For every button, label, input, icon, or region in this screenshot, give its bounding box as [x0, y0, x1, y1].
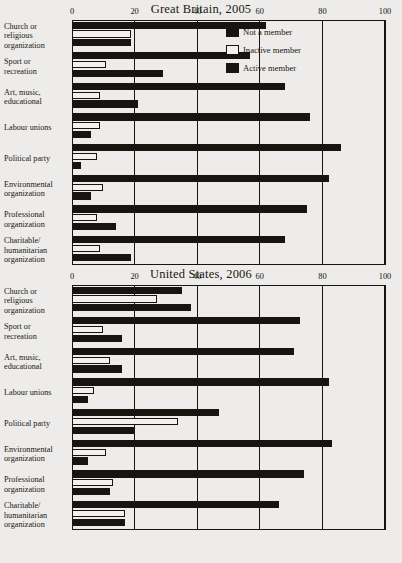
bar-inactive-member	[72, 387, 94, 394]
bar-active-member	[72, 519, 125, 526]
category-label-column-us: Church orreligiousorganizationSport orre…	[0, 285, 68, 530]
legend-label: Active member	[243, 63, 296, 73]
bar-not-a-member	[72, 144, 341, 151]
plot-area-great-britain: Church orreligiousorganizationSport orre…	[0, 20, 402, 265]
bar-active-member	[72, 335, 122, 342]
bar-active-member	[72, 427, 135, 434]
category-label-line: organization	[4, 454, 68, 463]
bar-inactive-member	[72, 30, 131, 37]
legend-label: Not a member	[243, 27, 292, 37]
bar-not-a-member	[72, 52, 250, 59]
bar-not-a-member	[72, 501, 279, 508]
category-label-line: humanitarian	[4, 511, 68, 520]
category-label: Sport orrecreation	[4, 57, 68, 75]
category-label: Environmentalorganization	[4, 445, 68, 463]
legend-swatch-icon	[226, 27, 239, 37]
category-label: Political party	[4, 154, 68, 163]
figure-root: Great Britain, 2005 Church orreligiousor…	[0, 0, 402, 563]
chart-panel-great-britain: Great Britain, 2005 Church orreligiousor…	[0, 0, 402, 265]
bar-active-member	[72, 365, 122, 372]
category-label-line: Political party	[4, 154, 68, 163]
x-tick-label-0: 0	[70, 7, 74, 16]
gridline-100	[384, 285, 385, 530]
x-tick-label-80: 80	[318, 272, 326, 281]
bar-active-member	[72, 223, 116, 230]
category-label-line: Environmental	[4, 180, 68, 189]
legend-gb: Not a memberInactive memberActive member	[226, 24, 344, 78]
category-label-line: Political party	[4, 419, 68, 428]
category-label-line: organization	[4, 41, 68, 50]
plot-bottom-rule-us	[72, 529, 385, 530]
bar-not-a-member	[72, 236, 285, 243]
bar-active-member	[72, 488, 110, 495]
bar-active-member	[72, 70, 163, 77]
bar-active-member	[72, 192, 91, 199]
category-label-line: Church or	[4, 22, 68, 31]
bar-inactive-member	[72, 184, 103, 191]
bar-inactive-member	[72, 418, 178, 425]
category-label: Charitable/humanitarianorganization	[4, 236, 68, 264]
category-label: Charitable/humanitarianorganization	[4, 501, 68, 529]
bar-inactive-member	[72, 510, 125, 517]
category-label-line: educational	[4, 97, 68, 106]
x-tick-label-60: 60	[256, 272, 264, 281]
bar-inactive-member	[72, 245, 100, 252]
category-label-line: humanitarian	[4, 246, 68, 255]
category-label: Church orreligiousorganization	[4, 22, 68, 50]
category-label: Professionalorganization	[4, 475, 68, 493]
bar-not-a-member	[72, 378, 329, 385]
category-label-line: Labour unions	[4, 388, 68, 397]
legend-swatch-icon	[226, 45, 239, 55]
category-label: Church orreligiousorganization	[4, 287, 68, 315]
bar-not-a-member	[72, 287, 182, 294]
bar-active-member	[72, 100, 138, 107]
legend-swatch-icon	[226, 63, 239, 73]
plot-canvas-us: 020406080100	[72, 285, 385, 530]
category-label: Labour unions	[4, 388, 68, 397]
category-label-column-gb: Church orreligiousorganizationSport orre…	[0, 20, 68, 265]
bar-inactive-member	[72, 153, 97, 160]
x-tick-label-40: 40	[193, 272, 201, 281]
category-label-line: Charitable/	[4, 501, 68, 510]
bar-active-member	[72, 304, 191, 311]
category-label-line: religious	[4, 31, 68, 40]
bar-inactive-member	[72, 214, 97, 221]
category-label-line: recreation	[4, 67, 68, 76]
category-label-line: Art, music,	[4, 353, 68, 362]
bar-not-a-member	[72, 409, 219, 416]
x-tick-label-100: 100	[379, 7, 392, 16]
bar-not-a-member	[72, 83, 285, 90]
category-label-line: educational	[4, 362, 68, 371]
category-label-line: organization	[4, 306, 68, 315]
category-label-line: organization	[4, 485, 68, 494]
bar-inactive-member	[72, 449, 106, 456]
category-label: Environmentalorganization	[4, 180, 68, 198]
category-label-line: religious	[4, 296, 68, 305]
legend-label: Inactive member	[243, 45, 301, 55]
bar-not-a-member	[72, 317, 300, 324]
bar-inactive-member	[72, 479, 113, 486]
bar-active-member	[72, 39, 131, 46]
category-label: Sport orrecreation	[4, 322, 68, 340]
bar-not-a-member	[72, 348, 294, 355]
category-label-line: Charitable/	[4, 236, 68, 245]
category-label-line: recreation	[4, 332, 68, 341]
plot-area-united-states: Church orreligiousorganizationSport orre…	[0, 285, 402, 530]
bar-inactive-member	[72, 92, 100, 99]
category-label-line: organization	[4, 520, 68, 529]
gridline-100	[384, 20, 385, 265]
x-tick-label-100: 100	[379, 272, 392, 281]
legend-item: Not a member	[226, 24, 344, 39]
x-tick-label-0: 0	[70, 272, 74, 281]
category-label-line: Professional	[4, 210, 68, 219]
gridline-80	[322, 285, 323, 530]
x-tick-label-40: 40	[193, 7, 201, 16]
bar-active-member	[72, 457, 88, 464]
category-label-line: organization	[4, 220, 68, 229]
category-label-line: Sport or	[4, 57, 68, 66]
legend-item: Inactive member	[226, 42, 344, 57]
bar-inactive-member	[72, 326, 103, 333]
category-label-line: Labour unions	[4, 123, 68, 132]
category-label-line: organization	[4, 189, 68, 198]
category-label-line: Professional	[4, 475, 68, 484]
